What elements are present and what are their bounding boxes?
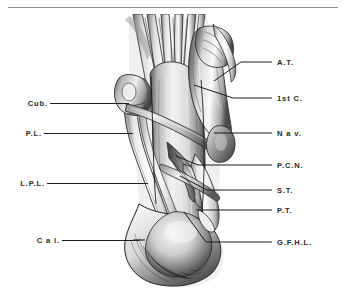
label-1st-cuneiform: 1st C. <box>277 94 303 103</box>
label-pcn: P.C.N. <box>277 161 303 170</box>
label-cub: Cub. <box>0 99 48 108</box>
label-nav: N a v. <box>277 129 302 138</box>
label-gfhl: G.F.H.L. <box>277 238 312 247</box>
anatomical-figure: Cub. P.L. L.P.L. C a l. A.T. 1st C. N a … <box>0 0 345 299</box>
label-pt: P.T. <box>277 206 293 215</box>
label-pl: P.L. <box>0 129 42 138</box>
label-cal: C a l. <box>0 236 60 245</box>
label-at: A.T. <box>277 58 294 67</box>
top-horizontal-rule <box>8 7 338 8</box>
foot-anatomy-illustration <box>95 14 243 290</box>
label-lpl: L.P.L. <box>0 179 45 188</box>
label-st: S.T. <box>277 186 293 195</box>
